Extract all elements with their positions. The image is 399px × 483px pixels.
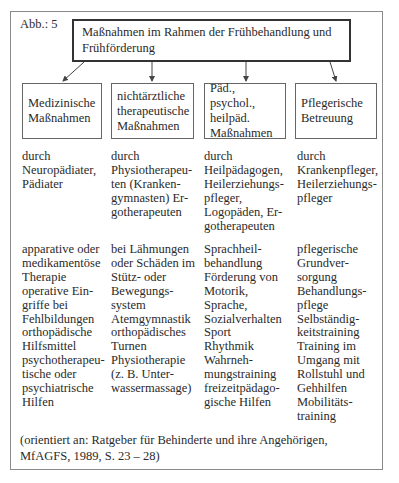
category-box-pedagogical: Päd., psychol., heilpäd. Maßnahmen bbox=[204, 83, 286, 139]
column-measures: apparative oder medikamentöse Therapie o… bbox=[22, 243, 105, 410]
category-heading: nichtärztliche therapeutische Maßnahmen bbox=[117, 89, 188, 134]
column-measures: pflegerische Grundver- sorgung Behandlun… bbox=[297, 243, 366, 424]
column-measures: bei Lähmungen oder Schäden im Stütz- ode… bbox=[111, 243, 195, 396]
category-box-medical: Medizinische Maßnahmen bbox=[22, 83, 102, 139]
category-heading: Medizinische Maßnahmen bbox=[28, 96, 96, 126]
arrow-to-nursing bbox=[330, 62, 336, 81]
category-heading: Pflegerische Betreuung bbox=[301, 96, 371, 126]
source-citation: (orientiert an: Ratgeber für Behinderte … bbox=[20, 433, 380, 464]
arrow-to-medical bbox=[63, 62, 84, 81]
category-box-nursing: Pflegerische Betreuung bbox=[295, 83, 377, 139]
column-providers: durch Neuropädiater, Pädiater bbox=[22, 150, 96, 192]
column-providers: durch Heilpädagogen, Heilerziehungs- pfl… bbox=[204, 150, 284, 233]
column-providers: durch Physiotherapeu- ten (Kranken- gymn… bbox=[111, 150, 192, 220]
column-measures: Sprachheil- behandlung Förderung von Mot… bbox=[204, 243, 282, 410]
category-heading: Päd., psychol., heilpäd. Maßnahmen bbox=[210, 81, 280, 141]
category-box-nonmedical: nichtärztliche therapeutische Maßnahmen bbox=[111, 83, 194, 139]
column-providers: durch Krankenpfleger, Heilerziehungs- pf… bbox=[297, 150, 378, 206]
